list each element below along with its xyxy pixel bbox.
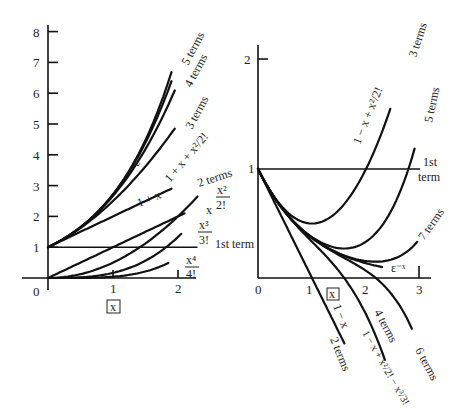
- label-left-x4-num: x⁴: [186, 253, 196, 267]
- left-y-tick-label-2: 2: [33, 209, 40, 224]
- label-left-x3-num: x³: [199, 218, 209, 232]
- label-right-3-terms: 3 terms: [406, 20, 430, 59]
- label-left-2-terms: 2 terms: [196, 165, 235, 189]
- label-left-x4-den: 4!: [186, 267, 196, 281]
- label-left-3-terms: 3 terms: [182, 93, 211, 131]
- label-left-x2-den: 2!: [216, 198, 226, 212]
- label-left-x3-den: 3!: [199, 233, 209, 247]
- label-right-1st: 1st: [423, 155, 438, 169]
- label-left-x: x: [206, 203, 212, 217]
- left-x-tick-label-2: 2: [175, 281, 182, 296]
- left-x-axis-label: x: [110, 300, 116, 314]
- left-plot: 12345678 0 1 2 x 5 terms 4 terms 3 terms…: [22, 25, 255, 314]
- right-x-axis-label: x: [329, 287, 335, 301]
- right-x-tick-label-1: 1: [306, 282, 313, 297]
- left-x-tick-label-1: 1: [110, 281, 117, 296]
- left-y-tick-label-8: 8: [33, 25, 40, 40]
- left-origin-label: 0: [33, 284, 40, 299]
- curve-2-terms: [258, 169, 344, 343]
- label-left-x2-num: x²: [217, 183, 227, 197]
- left-y-tick-label-4: 4: [33, 148, 40, 163]
- curve-x-3-: [48, 234, 181, 278]
- label-right-5-terms: 5 terms: [421, 86, 442, 124]
- label-left-1-plus-x: 1 + x: [135, 188, 163, 210]
- curve-e-x: [48, 72, 172, 247]
- curve-x: [48, 213, 185, 278]
- left-y-tick-label-7: 7: [33, 55, 40, 70]
- left-y-tick-label-6: 6: [33, 86, 40, 101]
- right-y-tick-label-2: 2: [244, 52, 251, 67]
- label-left-1st-term: 1st term: [215, 237, 255, 251]
- label-right-emx: ε⁻ˣ: [391, 261, 406, 275]
- left-y-ticks: 12345678: [33, 25, 58, 256]
- label-right-term: term: [418, 170, 441, 184]
- left-y-tick-label-5: 5: [33, 117, 40, 132]
- right-plot: 2 1 0 1 2 3 x 3 terms 1 − x + x²/2! 5 te…: [244, 20, 447, 406]
- left-y-tick-label-3: 3: [33, 179, 40, 194]
- right-origin-label: 0: [255, 282, 262, 297]
- right-x-tick-label-2: 2: [362, 282, 369, 297]
- left-y-tick-label-1: 1: [33, 240, 40, 255]
- right-y-tick-label-1: 1: [248, 161, 255, 176]
- right-x-tick-label-3: 3: [416, 282, 423, 297]
- taylor-series-diagram: 12345678 0 1 2 x 5 terms 4 terms 3 terms…: [0, 0, 472, 409]
- curve-e-x: [258, 169, 382, 267]
- label-right-6-terms: 6 terms: [412, 345, 441, 383]
- curve-5-terms: [258, 149, 415, 249]
- label-right-1-minus-x: 1 − x: [330, 302, 352, 330]
- curve-5-terms: [48, 81, 172, 247]
- label-right-7-terms: 7 terms: [415, 205, 447, 243]
- label-right-2-terms: 2 terms: [327, 335, 353, 374]
